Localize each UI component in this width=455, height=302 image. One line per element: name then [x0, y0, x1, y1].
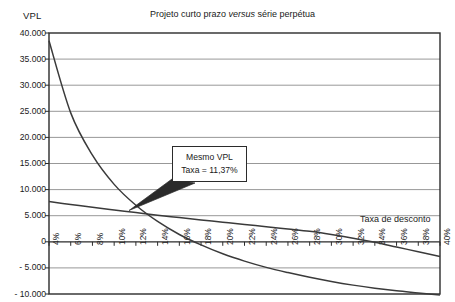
callout-line-1: Mesmo VPL: [173, 151, 246, 164]
series-line-short-term: [49, 202, 440, 257]
callout-line-2: Taxa = 11,37%: [173, 164, 246, 177]
callout-leader-line: [129, 179, 195, 211]
chart-figure: VPL Projeto curto prazo versus série per…: [0, 0, 455, 302]
intersection-callout: Mesmo VPL Taxa = 11,37%: [172, 146, 247, 182]
